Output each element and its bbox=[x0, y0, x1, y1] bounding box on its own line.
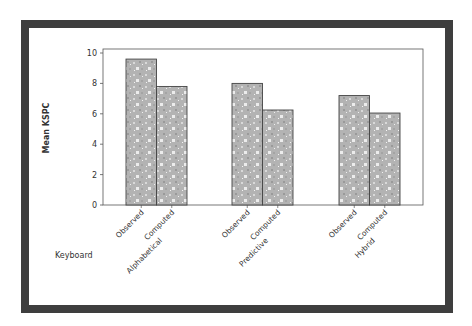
bar-label: Computed bbox=[248, 208, 282, 242]
x-axis-title: Keyboard bbox=[55, 251, 93, 260]
bar-label: Observed bbox=[327, 208, 359, 240]
bar-alphabetical-computed bbox=[157, 86, 188, 205]
bar-chart: 0246810 ObservedComputedAlphabeticalObse… bbox=[0, 0, 472, 326]
bars bbox=[126, 59, 400, 205]
y-tick-label: 0 bbox=[92, 201, 97, 210]
x-axis-labels: ObservedComputedAlphabeticalObservedComp… bbox=[114, 205, 390, 275]
y-axis-title: Mean KSPC bbox=[42, 102, 51, 153]
bar-hybrid-computed bbox=[370, 113, 401, 205]
y-axis: 0246810 bbox=[87, 49, 103, 210]
bar-label: Computed bbox=[142, 208, 176, 242]
y-tick-label: 8 bbox=[92, 79, 97, 88]
bar-alphabetical-observed bbox=[126, 59, 157, 205]
y-tick-label: 2 bbox=[92, 171, 97, 180]
bar-predictive-observed bbox=[232, 83, 263, 205]
bar-hybrid-observed bbox=[339, 96, 370, 205]
y-tick-label: 10 bbox=[87, 49, 97, 58]
bar-label: Observed bbox=[114, 208, 146, 240]
group-label-alphabetical: Alphabetical bbox=[125, 236, 164, 275]
bar-label: Computed bbox=[355, 208, 389, 242]
group-label-hybrid: Hybrid bbox=[353, 236, 377, 260]
bar-predictive-computed bbox=[263, 110, 294, 205]
bar-label: Observed bbox=[220, 208, 252, 240]
y-tick-label: 4 bbox=[92, 140, 97, 149]
y-tick-label: 6 bbox=[92, 110, 97, 119]
